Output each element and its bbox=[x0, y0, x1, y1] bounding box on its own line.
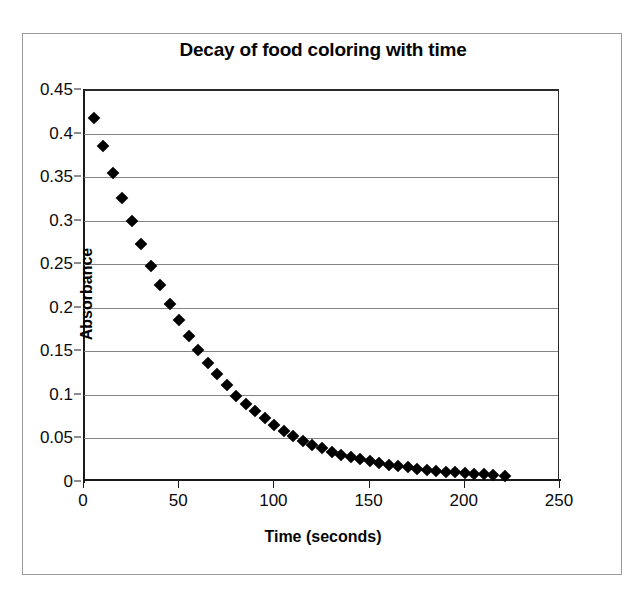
gridline bbox=[84, 90, 558, 91]
x-tick-label: 100 bbox=[259, 492, 287, 509]
x-tick-label: 50 bbox=[169, 492, 188, 509]
y-tick-label: 0.35 bbox=[40, 168, 73, 185]
y-tick-label: 0.45 bbox=[40, 81, 73, 98]
y-tick-label: 0.4 bbox=[49, 124, 73, 141]
y-axis-line bbox=[83, 89, 85, 483]
x-tick-label: 200 bbox=[450, 492, 478, 509]
y-tick-label: 0.2 bbox=[49, 298, 73, 315]
x-axis-ticks: 050100150200250 bbox=[83, 481, 559, 521]
figure-frame: Decay of food coloring with time 00.050.… bbox=[22, 33, 622, 575]
y-tick-label: 0.05 bbox=[40, 429, 73, 446]
y-tick-mark bbox=[74, 481, 81, 482]
data-point bbox=[125, 214, 138, 227]
gridline bbox=[84, 134, 558, 135]
x-tick-mark bbox=[83, 481, 84, 488]
y-tick-mark bbox=[74, 393, 81, 394]
gridline bbox=[84, 395, 558, 396]
x-tick-mark bbox=[369, 481, 370, 488]
y-axis-ticks: 00.050.10.150.20.250.30.350.40.45 bbox=[23, 89, 81, 481]
y-tick-label: 0.1 bbox=[49, 385, 73, 402]
y-tick-mark bbox=[74, 263, 81, 264]
x-tick-mark bbox=[273, 481, 274, 488]
y-tick-label: 0.15 bbox=[40, 342, 73, 359]
y-tick-label: 0.25 bbox=[40, 255, 73, 272]
data-point bbox=[220, 379, 233, 392]
data-point bbox=[135, 238, 148, 251]
data-point bbox=[173, 314, 186, 327]
data-point bbox=[201, 356, 214, 369]
y-tick-label: 0 bbox=[64, 473, 73, 490]
x-tick-mark bbox=[559, 481, 560, 488]
x-tick-label: 150 bbox=[354, 492, 382, 509]
data-point bbox=[211, 368, 224, 381]
x-tick-label: 250 bbox=[545, 492, 573, 509]
y-tick-label: 0.3 bbox=[49, 211, 73, 228]
y-tick-mark bbox=[74, 219, 81, 220]
data-point bbox=[97, 139, 110, 152]
y-tick-mark bbox=[74, 437, 81, 438]
chart-title: Decay of food coloring with time bbox=[23, 39, 623, 61]
y-tick-mark bbox=[74, 132, 81, 133]
y-tick-mark bbox=[74, 176, 81, 177]
x-tick-label: 0 bbox=[78, 492, 87, 509]
x-tick-mark bbox=[178, 481, 179, 488]
gridline bbox=[84, 351, 558, 352]
data-point bbox=[192, 343, 205, 356]
x-axis-title: Time (seconds) bbox=[23, 528, 623, 546]
y-tick-mark bbox=[74, 306, 81, 307]
gridline bbox=[84, 177, 558, 178]
data-point bbox=[144, 260, 157, 273]
gridline bbox=[84, 221, 558, 222]
gridline bbox=[84, 438, 558, 439]
data-point bbox=[182, 329, 195, 342]
data-point bbox=[116, 192, 129, 205]
y-tick-mark bbox=[74, 89, 81, 90]
data-point bbox=[230, 389, 243, 402]
data-point bbox=[87, 112, 100, 125]
y-tick-mark bbox=[74, 350, 81, 351]
gridline bbox=[84, 308, 558, 309]
data-point bbox=[154, 279, 167, 292]
x-tick-mark bbox=[464, 481, 465, 488]
plot-area bbox=[83, 89, 559, 481]
